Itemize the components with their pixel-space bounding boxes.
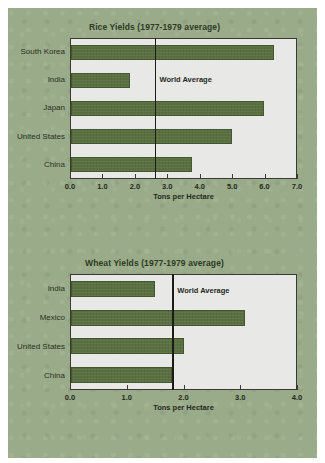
- wheat-chart-title: Wheat Yields (1977-1979 average): [0, 258, 309, 268]
- x-tick-label: 2.0: [130, 182, 140, 191]
- rice-yields-chart: Rice Yields (1977-1979 average) South Ko…: [0, 22, 309, 227]
- bar: [71, 367, 172, 383]
- bar-row: [71, 338, 296, 354]
- wheat-x-axis-tick-labels: 0.01.02.03.04.0: [70, 393, 297, 403]
- category-label: Japan: [0, 104, 68, 112]
- bar-row: [71, 101, 296, 116]
- wheat-world-average-line: [172, 274, 174, 390]
- x-tick-label: 1.0: [97, 182, 107, 191]
- bar: [71, 101, 264, 116]
- wheat-yields-chart: Wheat Yields (1977-1979 average) IndiaMe…: [0, 258, 309, 438]
- x-tick-mark: [102, 174, 103, 179]
- category-label: United States: [0, 343, 68, 351]
- x-tick-label: 2.0: [178, 393, 188, 402]
- x-tick-label: 6.0: [259, 182, 269, 191]
- rice-x-axis-tick-labels: 0.01.02.03.04.05.06.07.0: [70, 182, 297, 192]
- bar: [71, 45, 274, 60]
- x-tick-mark: [70, 174, 71, 179]
- rice-category-labels: South KoreaIndiaJapanUnited StatesChina: [0, 38, 68, 179]
- category-label: South Korea: [0, 48, 68, 56]
- x-tick-mark: [127, 385, 128, 390]
- wheat-x-axis-ticks: [70, 385, 297, 390]
- rice-world-average-label: World Average: [160, 75, 212, 84]
- x-tick-label: 5.0: [227, 182, 237, 191]
- x-tick-mark: [200, 174, 201, 179]
- x-tick-label: 3.0: [235, 393, 245, 402]
- bar: [71, 338, 184, 354]
- x-tick-mark: [184, 385, 185, 390]
- x-tick-mark: [265, 174, 266, 179]
- x-tick-mark: [297, 174, 298, 179]
- bar-row: [71, 367, 296, 383]
- bar: [71, 129, 232, 144]
- x-tick-mark: [240, 385, 241, 390]
- x-tick-label: 0.0: [65, 393, 75, 402]
- bar: [71, 73, 130, 88]
- chart-page: Rice Yields (1977-1979 average) South Ko…: [0, 0, 325, 463]
- bar-row: [71, 310, 296, 326]
- rice-chart-title: Rice Yields (1977-1979 average): [0, 22, 309, 32]
- category-label: United States: [0, 133, 68, 141]
- x-tick-mark: [70, 385, 71, 390]
- rice-x-axis-title: Tons per Hectare: [70, 192, 297, 201]
- x-tick-label: 0.0: [65, 182, 75, 191]
- bar-row: [71, 45, 296, 60]
- bar: [71, 157, 192, 172]
- wheat-world-average-label: World Average: [177, 286, 229, 295]
- wheat-category-labels: IndiaMexicoUnited StatesChina: [0, 274, 68, 390]
- rice-world-average-line: [155, 38, 157, 179]
- x-tick-mark: [167, 174, 168, 179]
- bar: [71, 281, 155, 297]
- x-tick-mark: [297, 385, 298, 390]
- bar: [71, 310, 245, 326]
- wheat-plot-area: World Average: [70, 274, 297, 390]
- wheat-x-axis-title: Tons per Hectare: [70, 403, 297, 412]
- category-label: China: [0, 161, 68, 169]
- category-label: Mexico: [0, 314, 68, 322]
- category-label: China: [0, 372, 68, 380]
- x-tick-label: 4.0: [292, 393, 302, 402]
- bar-row: [71, 129, 296, 144]
- rice-x-axis-ticks: [70, 174, 297, 179]
- x-tick-label: 1.0: [122, 393, 132, 402]
- x-tick-mark: [135, 174, 136, 179]
- rice-plot-area: World Average: [70, 38, 297, 179]
- x-tick-label: 3.0: [162, 182, 172, 191]
- rice-bars: [71, 39, 296, 178]
- category-label: India: [0, 285, 68, 293]
- x-tick-label: 4.0: [194, 182, 204, 191]
- x-tick-mark: [232, 174, 233, 179]
- x-tick-label: 7.0: [292, 182, 302, 191]
- category-label: India: [0, 76, 68, 84]
- bar-row: [71, 157, 296, 172]
